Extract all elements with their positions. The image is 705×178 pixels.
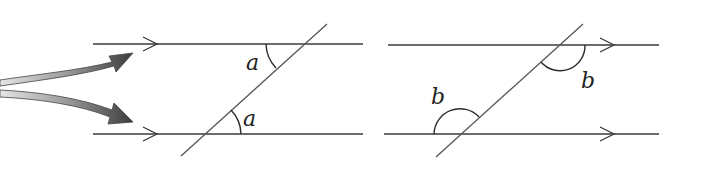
angle-arc-a-lower xyxy=(231,110,241,134)
pointer-arrow-upper xyxy=(0,53,133,86)
angle-label-a-lower: a xyxy=(243,106,256,131)
left-figure: a a xyxy=(93,24,363,156)
angle-label-b-upper: b xyxy=(581,68,595,93)
angle-label-b-lower: b xyxy=(431,84,445,109)
angle-arc-a-upper xyxy=(266,44,276,68)
angle-arc-b-upper xyxy=(541,45,585,71)
transversal-line xyxy=(436,24,583,157)
pointer-arrow-lower xyxy=(0,90,133,124)
parallel-lines-diagram: a a b b xyxy=(0,0,705,178)
angle-label-a-upper: a xyxy=(246,50,259,75)
angle-arc-b-lower xyxy=(434,109,479,134)
right-figure: b b xyxy=(384,24,659,157)
